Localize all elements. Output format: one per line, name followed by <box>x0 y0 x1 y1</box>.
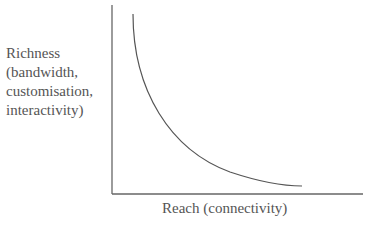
x-axis-label: Reach (connectivity) <box>162 200 287 217</box>
diagram-canvas <box>0 0 381 230</box>
tradeoff-curve <box>133 14 302 186</box>
